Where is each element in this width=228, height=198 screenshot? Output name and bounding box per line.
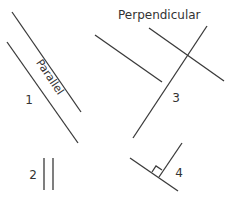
figure-number-2: 2: [29, 168, 37, 182]
figure-number-1: 1: [25, 93, 33, 107]
separate-diagonal-line: [95, 35, 162, 82]
figure-number-4: 4: [175, 166, 183, 180]
lines-diagram: Parallel 1 2 Perpendicular 3 4: [0, 0, 228, 198]
figure-1-parallel-lines: Parallel 1: [7, 12, 81, 143]
crossing-line-a: [149, 28, 224, 81]
figure-4-right-angle: 4: [130, 143, 183, 191]
parallel-label: Parallel: [33, 57, 66, 98]
right-angle-marker-icon: [152, 166, 162, 172]
figure-2-vertical-lines: 2: [29, 158, 53, 190]
perpendicular-title: Perpendicular: [118, 8, 201, 22]
figure-3-crossing-lines: 3: [95, 26, 224, 138]
base-line: [130, 158, 178, 191]
figure-number-3: 3: [172, 91, 180, 105]
